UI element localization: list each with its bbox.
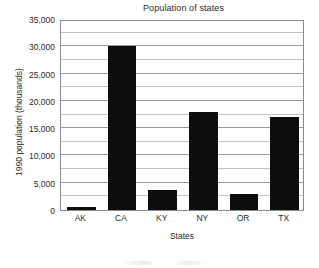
x-tick-label-or: OR bbox=[237, 213, 250, 223]
y-axis-tick-labels: 05,00010,00015,00020,00025,00030,00035,0… bbox=[0, 20, 57, 211]
x-tick-label-ny: NY bbox=[196, 213, 208, 223]
bar-tx[interactable] bbox=[270, 117, 298, 210]
bar-slot[interactable] bbox=[224, 21, 265, 210]
chart-title-text: Population of states bbox=[143, 3, 224, 13]
y-tick-label: 15,000 bbox=[29, 124, 55, 134]
bar-chart-figure: Population of states 1990 population (th… bbox=[0, 0, 319, 268]
bar-ak[interactable] bbox=[67, 207, 95, 210]
y-tick-label: 20,000 bbox=[29, 97, 55, 107]
bar-ny[interactable] bbox=[189, 112, 217, 210]
bar-ky[interactable] bbox=[148, 190, 176, 210]
bar-or[interactable] bbox=[230, 194, 258, 210]
bar-slot[interactable] bbox=[61, 21, 102, 210]
plot-area bbox=[60, 20, 304, 211]
scan-artifact bbox=[120, 261, 210, 265]
y-tick-label: 25,000 bbox=[29, 70, 55, 80]
bar-ca[interactable] bbox=[108, 46, 136, 210]
y-tick-label: 10,000 bbox=[29, 151, 55, 161]
y-tick-label: 35,000 bbox=[29, 15, 55, 25]
bar-slot[interactable] bbox=[264, 21, 305, 210]
bar-slot[interactable] bbox=[102, 21, 143, 210]
y-tick-label: 0 bbox=[50, 206, 55, 216]
bar-slot[interactable] bbox=[142, 21, 183, 210]
bar-slot[interactable] bbox=[183, 21, 224, 210]
x-tick-label-tx: TX bbox=[278, 213, 289, 223]
y-tick-label: 30,000 bbox=[29, 42, 55, 52]
bar-series bbox=[61, 21, 303, 210]
x-axis-title: States bbox=[60, 231, 304, 241]
x-tick-label-ak: AK bbox=[75, 213, 86, 223]
x-axis-tick-labels: AKCAKYNYORTX bbox=[60, 213, 304, 227]
x-tick-label-ca: CA bbox=[115, 213, 127, 223]
chart-title: Population of states bbox=[0, 3, 319, 13]
x-tick-label-ky: KY bbox=[156, 213, 167, 223]
y-tick-label: 5,000 bbox=[34, 179, 55, 189]
